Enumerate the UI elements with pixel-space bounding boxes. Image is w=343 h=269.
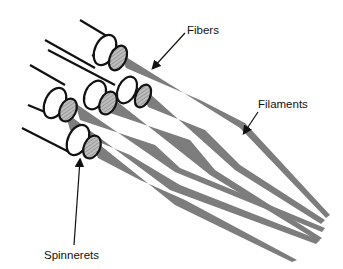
spinneret-diagram: Fibers Filaments Spinnerets <box>0 0 343 269</box>
filaments-label: Filaments <box>258 98 308 110</box>
spinnerets-label: Spinnerets <box>44 249 99 261</box>
fibers-label: Fibers <box>187 24 219 36</box>
diagram-illustration <box>0 0 343 269</box>
